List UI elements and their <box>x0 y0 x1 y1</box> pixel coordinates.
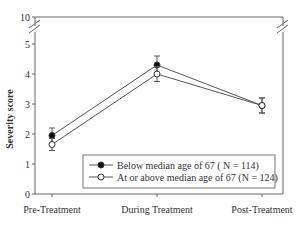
data-point <box>154 71 160 77</box>
y-tick-label: 10 <box>20 12 30 23</box>
data-point <box>49 142 55 148</box>
y-tick-label: 2 <box>25 129 30 140</box>
series-group <box>49 56 265 151</box>
series-line <box>52 74 262 145</box>
y-tick-label: 1 <box>25 159 30 170</box>
x-tick-label: Pre-Treatment <box>23 204 81 215</box>
x-tick-label: Post-Treatment <box>231 204 293 215</box>
series-above-median <box>49 67 265 151</box>
line-chart: 01234510Severity scorePre-TreatmentDurin… <box>0 0 301 226</box>
data-point <box>259 103 265 109</box>
legend-marker <box>98 162 104 168</box>
legend: Below median age of 67 ( N = 114)At or a… <box>83 155 278 188</box>
y-tick-label: 3 <box>25 99 30 110</box>
legend-label: Below median age of 67 ( N = 114) <box>117 160 259 172</box>
y-tick-label: 5 <box>25 39 30 50</box>
x-tick-label: During Treatment <box>121 204 193 215</box>
legend-marker <box>98 174 104 180</box>
legend-label: At or above median age of 67 (N = 124) <box>117 172 278 184</box>
y-tick-label: 0 <box>25 189 30 200</box>
y-tick-label: 4 <box>25 69 30 80</box>
y-axis-label: Severity score <box>4 89 15 149</box>
data-point <box>49 133 55 139</box>
